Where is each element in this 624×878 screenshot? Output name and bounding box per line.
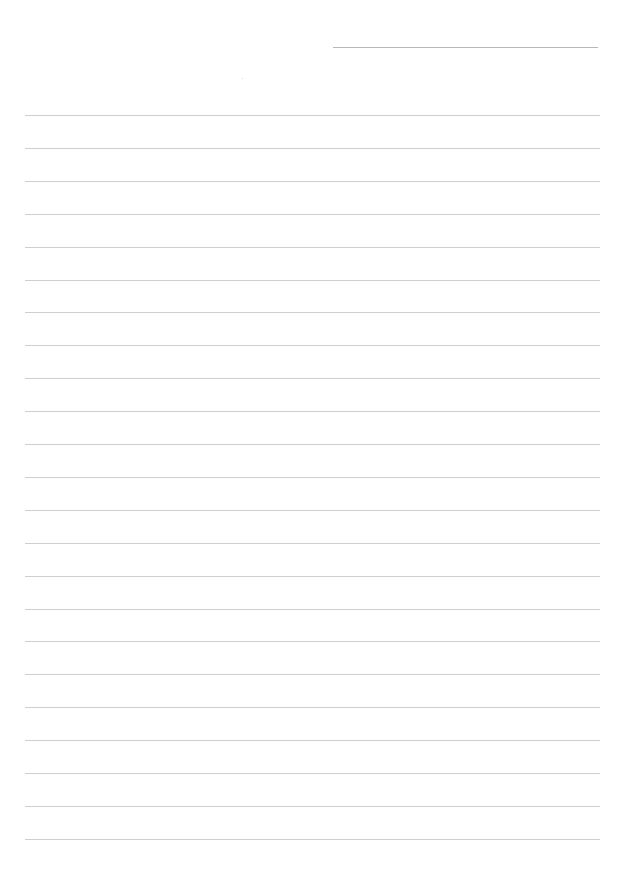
- scan-speck: [242, 78, 243, 79]
- ruled-line: [25, 609, 600, 610]
- ruled-line: [25, 806, 600, 807]
- ruled-line: [25, 740, 600, 741]
- ruled-line: [25, 345, 600, 346]
- ruled-line: [25, 576, 600, 577]
- ruled-line: [25, 115, 600, 116]
- header-date-line: [333, 47, 598, 48]
- ruled-line: [25, 312, 600, 313]
- ruled-line: [25, 477, 600, 478]
- ruled-line: [25, 378, 600, 379]
- ruled-line: [25, 839, 600, 840]
- ruled-line: [25, 543, 600, 544]
- ruled-line: [25, 181, 600, 182]
- ruled-line: [25, 148, 600, 149]
- ruled-line: [25, 641, 600, 642]
- ruled-line: [25, 411, 600, 412]
- ruled-line: [25, 280, 600, 281]
- ruled-line: [25, 510, 600, 511]
- ruled-line: [25, 214, 600, 215]
- ruled-line: [25, 707, 600, 708]
- ruled-line: [25, 674, 600, 675]
- ruled-line: [25, 773, 600, 774]
- ruled-line: [25, 444, 600, 445]
- ruled-line: [25, 247, 600, 248]
